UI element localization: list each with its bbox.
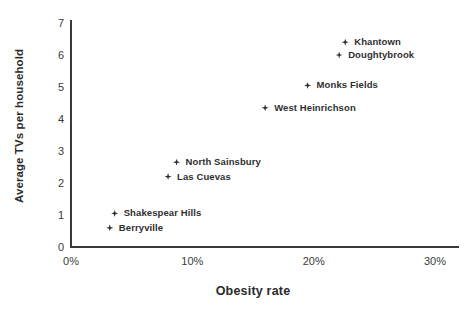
x-tick-label: 30% bbox=[412, 254, 458, 268]
data-point-label: Las Cuevas bbox=[177, 170, 231, 184]
x-tick-label: 20% bbox=[291, 254, 337, 268]
y-tick-label: 4 bbox=[58, 111, 64, 127]
data-point-label: Monks Fields bbox=[317, 78, 378, 92]
data-point-label: North Sainsbury bbox=[186, 155, 261, 169]
x-tick-label: 0% bbox=[48, 254, 94, 268]
x-tick-label: 10% bbox=[169, 254, 215, 268]
diamond-marker-icon bbox=[111, 210, 118, 217]
diamond-marker-icon bbox=[342, 39, 349, 46]
diamond-marker-icon bbox=[173, 159, 180, 166]
diamond-marker-icon bbox=[262, 104, 269, 111]
y-axis-title-text: Average TVs per household bbox=[13, 49, 25, 203]
y-tick-label: 6 bbox=[58, 47, 64, 63]
y-axis-line bbox=[70, 20, 72, 248]
y-tick-label: 1 bbox=[58, 207, 64, 223]
diamond-marker-icon bbox=[336, 52, 343, 59]
y-tick-label: 3 bbox=[58, 143, 64, 159]
x-tick-20%: 20% bbox=[291, 254, 337, 268]
diamond-marker-icon bbox=[304, 82, 311, 89]
data-point-label: Shakespear Hills bbox=[124, 206, 202, 220]
x-axis-title: Obesity rate bbox=[71, 284, 435, 298]
diamond-marker-icon bbox=[106, 224, 113, 231]
y-tick-label: 5 bbox=[58, 79, 64, 95]
x-tick-10%: 10% bbox=[169, 254, 215, 268]
data-point-label: West Heinrichson bbox=[274, 101, 356, 115]
data-point-label: Berryville bbox=[119, 221, 163, 235]
y-axis-title: Average TVs per household bbox=[6, 0, 32, 252]
y-tick-label: 0 bbox=[58, 239, 64, 255]
y-tick-label: 7 bbox=[58, 15, 64, 31]
data-point-label: Doughtybrook bbox=[348, 48, 414, 62]
diamond-marker-icon bbox=[165, 173, 172, 180]
x-axis-line bbox=[70, 246, 459, 248]
x-tick-30%: 30% bbox=[412, 254, 458, 268]
y-tick-label: 2 bbox=[58, 175, 64, 191]
x-tick-0%: 0% bbox=[48, 254, 94, 268]
scatter-chart: Average TVs per household 01234567 0%10%… bbox=[0, 0, 467, 314]
